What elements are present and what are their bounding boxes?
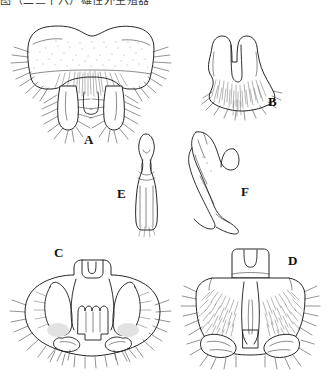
panel-label-a: A: [84, 132, 93, 148]
panel-e-drawing: [136, 134, 158, 237]
panel-label-e: E: [117, 186, 126, 202]
panel-f-drawing: [189, 132, 239, 234]
panel-c-drawing: [10, 260, 171, 368]
figure-plate: 图（二三十六）雄性外生殖器: [0, 0, 336, 390]
panel-d-drawing: [181, 249, 320, 369]
panel-label-d: D: [288, 253, 297, 269]
illustration-canvas: [0, 0, 336, 390]
panel-label-f: F: [241, 184, 249, 200]
panel-label-c: C: [54, 245, 63, 261]
panel-label-b: B: [268, 94, 277, 110]
panel-a-drawing: [11, 26, 171, 143]
